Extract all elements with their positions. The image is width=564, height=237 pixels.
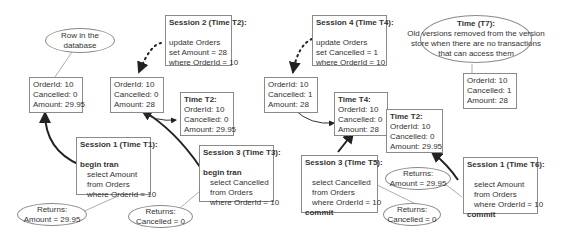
session-title: Session 2 (Time T2): — [169, 18, 228, 28]
row-cancelled: Cancelled: 1 — [268, 90, 314, 100]
row-orderid: OrderId: 10 — [467, 76, 513, 86]
callout-line: Amount = 29.95 — [390, 179, 447, 189]
callout-returns-session3-t5: Returns: Cancelled = 0 — [383, 203, 441, 226]
commit: commit — [305, 208, 374, 218]
session-title: Session 3 (Time T5): — [305, 158, 374, 168]
row-orderid: OrderId: 10 — [338, 105, 384, 115]
callout-row-in-database: Row in the database — [45, 28, 115, 53]
sql-line: select Amount — [467, 180, 534, 190]
commit: commit — [467, 210, 534, 220]
session-title: Session 1 (Time T6): — [467, 160, 534, 170]
session-3-t5-box: Session 3 (Time T5): select Cancelled fr… — [301, 155, 378, 213]
sql-line: set Amount = 28 — [169, 48, 228, 58]
sql-line: where OrderId = 10 — [305, 198, 374, 208]
row-version-after-t2: OrderId: 10 Cancelled: 0 Amount: 28 — [110, 77, 164, 113]
row-cancelled: Cancelled: 1 — [467, 86, 513, 96]
sql-line: update Orders — [169, 38, 228, 48]
callout-line: Row in the — [61, 31, 99, 41]
session-4-t4-box: Session 4 (Time T4): update Orders set C… — [312, 15, 387, 66]
version-store-t2-b: Time T2: OrderId: 10 Cancelled: 0 Amount… — [386, 109, 443, 153]
callout-line: Returns: — [37, 205, 67, 215]
sql-line: select Cancelled — [305, 178, 374, 188]
row-amount: Amount: 29.95 — [184, 125, 230, 135]
callout-line: Old versions removed from the version — [407, 29, 544, 39]
sql-line: set Cancelled = 1 — [316, 48, 383, 58]
row-version-final: OrderId: 10 Cancelled: 1 Amount: 28 — [463, 73, 517, 109]
row-cancelled: Cancelled: 0 — [33, 90, 79, 100]
callout-line: database — [64, 41, 97, 51]
callout-line: store when there are no transactions — [411, 39, 541, 49]
callout-line: Returns: — [145, 207, 175, 217]
callout-t7-cleanup: Time (T7): Old versions removed from the… — [420, 15, 532, 63]
callout-returns-session1-t1: Returns: Amount = 29.95 — [17, 203, 87, 226]
sql-line: from Orders — [80, 180, 147, 190]
session-2-t2-box: Session 2 (Time T2): update Orders set A… — [165, 15, 232, 66]
callout-line: Amount = 29.95 — [24, 215, 81, 225]
sql-line: where OrderId = 10 — [203, 198, 270, 208]
begin-tran: begin tran — [80, 160, 147, 170]
row-version-after-t4: OrderId: 10 Cancelled: 1 Amount: 28 — [264, 77, 318, 113]
session-1-t1-box: Session 1 (Time T1): begin tran select A… — [76, 137, 151, 195]
session-title: Session 4 (Time T4): — [316, 18, 383, 28]
session-title: Session 3 (Time T3): — [203, 148, 270, 158]
row-orderid: OrderId: 10 — [390, 122, 439, 132]
sql-line: where OrderId = 10 — [467, 200, 534, 210]
version-time: Time T2: — [184, 95, 230, 105]
row-amount: Amount: 28 — [114, 100, 160, 110]
row-orderid: OrderId: 10 — [184, 105, 230, 115]
callout-line: Cancelled = 0 — [387, 215, 436, 225]
callout-line: Returns: — [403, 169, 433, 179]
row-amount: Amount: 28 — [467, 96, 513, 106]
version-time: Time T4: — [338, 95, 384, 105]
row-amount: Amount: 28 — [268, 100, 314, 110]
sql-line: select Cancelled — [203, 178, 270, 188]
row-cancelled: Cancelled: 0 — [184, 115, 230, 125]
row-amount: Amount: 29.95 — [390, 142, 439, 152]
sql-line: select Amount — [80, 170, 147, 180]
sql-line: where OrderId = 10 — [169, 58, 228, 68]
row-amount: Amount: 28 — [338, 125, 384, 135]
sql-line: update Orders — [316, 38, 383, 48]
session-title: Session 1 (Time T1): — [80, 140, 147, 150]
sql-line: where OrderId = 10 — [80, 190, 147, 200]
row-amount: Amount: 29.95 — [33, 100, 79, 110]
version-time: Time T2: — [390, 112, 439, 122]
callout-returns-session1-t6: Returns: Amount = 29.95 — [385, 167, 451, 190]
row-orderid: OrderId: 10 — [33, 80, 79, 90]
begin-tran: begin tran — [203, 168, 270, 178]
callout-line: that can access them — [438, 49, 514, 59]
row-cancelled: Cancelled: 0 — [338, 115, 384, 125]
row-cancelled: Cancelled: 0 — [390, 132, 439, 142]
sql-line: where OrderId = 10 — [316, 58, 383, 68]
sql-line: from Orders — [305, 188, 374, 198]
callout-line: Returns: — [397, 205, 427, 215]
version-store-t2-a: Time T2: OrderId: 10 Cancelled: 0 Amount… — [180, 92, 234, 136]
sql-line: from Orders — [467, 190, 534, 200]
version-store-t4: Time T4: OrderId: 10 Cancelled: 0 Amount… — [334, 92, 388, 136]
sql-line: from Orders — [203, 188, 270, 198]
session-3-t3-box: Session 3 (Time T3): begin tran select C… — [199, 145, 274, 202]
callout-returns-session3-t3: Returns: Cancelled = 0 — [128, 205, 193, 228]
row-cancelled: Cancelled: 0 — [114, 90, 160, 100]
callout-line: Cancelled = 0 — [136, 217, 185, 227]
session-1-t6-box: Session 1 (Time T6): select Amount from … — [463, 157, 538, 214]
row-orderid: OrderId: 10 — [114, 80, 160, 90]
callout-title: Time (T7): — [457, 19, 495, 29]
row-orderid: OrderId: 10 — [268, 80, 314, 90]
row-version-original: OrderId: 10 Cancelled: 0 Amount: 29.95 — [29, 77, 83, 113]
